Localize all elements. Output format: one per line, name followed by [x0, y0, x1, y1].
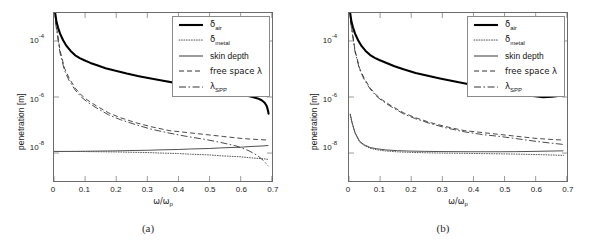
series-delta-metal-a — [54, 151, 268, 159]
legend-swatch-solid-thin — [472, 50, 500, 62]
legend-sub-delta-air: air — [215, 24, 222, 30]
y-tick-label-a-0: 10-4 — [4, 33, 44, 45]
legend-swatch-dashed — [177, 65, 205, 77]
x-tick-label-b-2: 0.2 — [401, 185, 421, 194]
plot-area-b: δair δmetal skin depth — [348, 12, 568, 182]
legend-swatch-solid-thick — [177, 19, 205, 31]
y-tick-label-a-2: 10-8 — [4, 140, 44, 152]
y-tick-label-a-1: 10-6 — [4, 92, 44, 104]
legend-label-free-space-lambda: free space λ — [505, 67, 557, 76]
x-tick-label-b-7: 0.7 — [558, 185, 578, 194]
series-skin-depth-b — [350, 114, 563, 152]
y-tick-label-b-2: 10-8 — [297, 140, 337, 152]
x-tick-label-b-6: 0.6 — [526, 185, 546, 194]
legend-sub-delta-metal: metal — [215, 40, 230, 46]
legend-item-skin-depth-a: skin depth — [173, 48, 269, 64]
x-tick-label-b-1: 0.1 — [369, 185, 389, 194]
legend-label-skin-depth: skin depth — [210, 52, 249, 61]
legend-item-delta-metal-a: δmetal — [173, 33, 269, 49]
panel-b: penetration [m] 10-4 10-6 10-8 — [295, 0, 591, 248]
legend-b: δair δmetal skin depth — [467, 16, 565, 97]
x-tick-label-b-0: 0 — [338, 185, 358, 194]
y-tick-label-b-0: 10-4 — [297, 33, 337, 45]
legend-item-lambda-spp-a: λSPP — [173, 79, 269, 95]
x-tick-label-a-5: 0.5 — [200, 185, 220, 194]
legend-label-skin-depth: skin depth — [505, 52, 544, 61]
legend-sub-delta-metal: metal — [510, 40, 525, 46]
panel-a: penetration [m] 10-4 10-6 10-8 — [0, 0, 296, 248]
legend-label-free-space-lambda: free space λ — [210, 67, 262, 76]
legend-item-skin-depth-b: skin depth — [468, 48, 564, 64]
legend-item-delta-air-b: δair — [468, 17, 564, 33]
legend-item-free-space-lambda-b: free space λ — [468, 64, 564, 80]
caption-b: (b) — [295, 222, 591, 234]
legend-swatch-solid-thin — [177, 50, 205, 62]
legend-sub-lambda-spp: SPP — [510, 86, 522, 92]
legend-swatch-dotted — [177, 34, 205, 46]
legend-swatch-solid-thick — [472, 19, 500, 31]
legend-item-free-space-lambda-a: free space λ — [173, 64, 269, 80]
legend-swatch-dotted — [472, 34, 500, 46]
legend-swatch-dashdot — [177, 81, 205, 93]
x-axis-label-a: ω/ωp — [133, 197, 193, 207]
y-tick-label-b-1: 10-6 — [297, 92, 337, 104]
caption-a: (a) — [0, 222, 296, 234]
legend-a: δair δmetal skin depth — [172, 16, 270, 97]
legend-item-delta-air-a: δair — [173, 17, 269, 33]
legend-sub-delta-air: air — [510, 24, 517, 30]
legend-sub-lambda-spp: SPP — [215, 86, 227, 92]
x-tick-label-b-4: 0.4 — [464, 185, 484, 194]
figure-root: penetration [m] 10-4 10-6 10-8 — [0, 0, 591, 248]
x-tick-label-a-6: 0.6 — [231, 185, 251, 194]
x-tick-label-a-1: 0.1 — [74, 185, 94, 194]
plot-area-a: δair δmetal skin depth — [53, 12, 273, 182]
legend-swatch-dashdot — [472, 81, 500, 93]
legend-swatch-dashed — [472, 65, 500, 77]
x-tick-label-a-4: 0.4 — [169, 185, 189, 194]
legend-item-lambda-spp-b: λSPP — [468, 79, 564, 95]
x-tick-label-b-5: 0.5 — [495, 185, 515, 194]
x-tick-label-a-3: 0.3 — [137, 185, 157, 194]
x-tick-label-a-0: 0 — [43, 185, 63, 194]
x-axis-label-b: ω/ωp — [428, 197, 488, 207]
x-tick-label-a-2: 0.2 — [106, 185, 126, 194]
legend-item-delta-metal-b: δmetal — [468, 33, 564, 49]
x-tick-label-b-3: 0.3 — [432, 185, 452, 194]
x-tick-label-a-7: 0.7 — [263, 185, 283, 194]
